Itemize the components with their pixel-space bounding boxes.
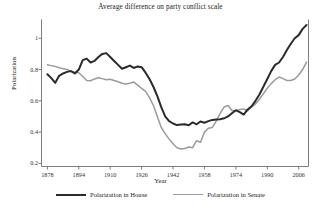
y-tick-label: 0.4 [8, 128, 38, 135]
x-tick-label: 1926 [127, 171, 157, 178]
x-tick-label: 1894 [64, 171, 94, 178]
legend-item-senate: Polarization in Senate [173, 191, 265, 198]
legend-line-house-icon [56, 194, 86, 196]
x-tick-label: 1942 [158, 171, 188, 178]
legend-label-senate: Polarization in Senate [207, 191, 265, 198]
axis-frame [42, 20, 309, 167]
x-tick-label: 1974 [221, 171, 251, 178]
plot-area [0, 0, 321, 209]
y-tick-label: 0.8 [8, 66, 38, 73]
series-lines [47, 25, 306, 149]
y-tick-label: 0.2 [8, 159, 38, 166]
tick-marks [39, 38, 299, 169]
x-tick-label: 2006 [284, 171, 314, 178]
legend-label-house: Polarization in House [90, 191, 147, 198]
y-tick-label: 0.6 [8, 97, 38, 104]
legend-item-house: Polarization in House [56, 191, 147, 198]
x-tick-label: 1958 [189, 171, 219, 178]
line-polarization-house [47, 25, 306, 125]
y-tick-label: 1 [8, 34, 38, 41]
x-tick-label: 1910 [95, 171, 125, 178]
chart-legend: Polarization in House Polarization in Se… [0, 191, 321, 198]
line-polarization-senate [47, 62, 306, 149]
chart-figure: Average difference on party conflict sca… [0, 0, 321, 209]
x-tick-label: 1990 [252, 171, 282, 178]
legend-line-senate-icon [173, 194, 203, 195]
x-tick-label: 1878 [32, 171, 62, 178]
